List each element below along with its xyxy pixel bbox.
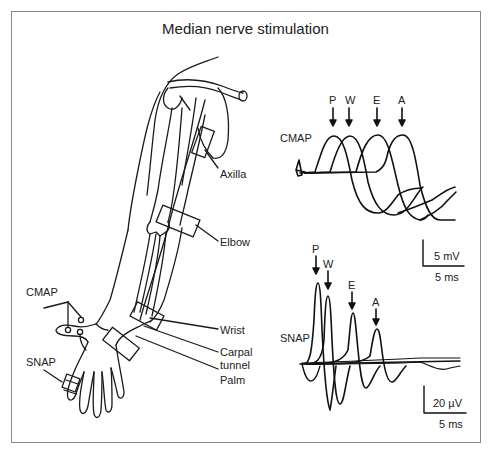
snap-marker-a: A (372, 296, 379, 308)
cmap-marker-a: A (398, 94, 405, 106)
snap-marker-e: E (348, 279, 355, 291)
cmap-scale-voltage: 5 mV (434, 250, 460, 262)
cmap-trace-label: CMAP (280, 132, 312, 144)
snap-marker-p: P (312, 243, 319, 255)
cmap-traces (0, 0, 491, 454)
snap-marker-w: W (323, 258, 333, 270)
snap-trace-label: SNAP (280, 332, 310, 344)
cmap-marker-w: W (345, 94, 355, 106)
cmap-marker-e: E (373, 94, 380, 106)
cmap-scale-time: 5 ms (435, 271, 459, 283)
cmap-marker-p: P (329, 94, 336, 106)
snap-scale-voltage: 20 µV (433, 397, 462, 409)
snap-scale-time: 5 ms (439, 418, 463, 430)
